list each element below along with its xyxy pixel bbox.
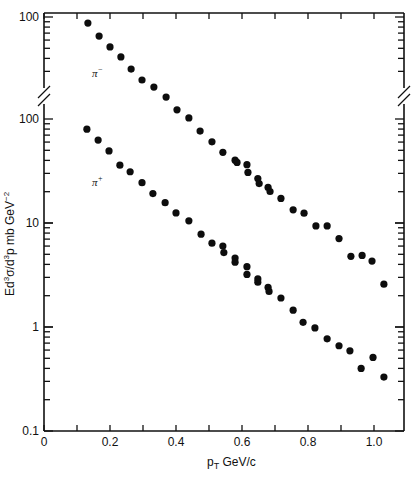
x-tick-label: 0.2 [102, 435, 119, 449]
axis-tick-labels: 00.20.40.60.81.00.1110100100 [19, 10, 383, 449]
data-point-pi-minus [96, 32, 103, 39]
data-point-pi-plus [254, 279, 261, 286]
data-point-pi-plus [220, 249, 227, 256]
data-point-pi-minus [266, 188, 273, 195]
data-point-pi-minus [173, 106, 180, 113]
data-point-pi-plus [162, 199, 169, 206]
x-tick-label: 0.6 [234, 435, 251, 449]
data-point-pi-minus [117, 53, 124, 60]
data-point-pi-minus [368, 257, 375, 264]
data-point-pi-minus [380, 281, 387, 288]
data-point-pi-plus [299, 319, 306, 326]
data-point-pi-plus [127, 168, 134, 175]
data-point-pi-plus [95, 136, 102, 143]
y-axis-title: Ed3σ/d3p mb GeV−2 [2, 191, 17, 296]
y-tick-label: 0.1 [22, 424, 39, 438]
data-point-pi-plus [105, 147, 112, 154]
y-tick-label: 100 [19, 112, 39, 126]
data-point-pi-minus [347, 253, 354, 260]
data-point-pi-plus [335, 342, 342, 349]
data-point-pi-minus [185, 114, 192, 121]
data-point-pi-minus [312, 222, 319, 229]
data-point-pi-plus [83, 126, 90, 133]
pion-spectrum-chart: 00.20.40.60.81.00.1110100100 π− π+ pT Ge… [0, 0, 420, 479]
data-point-pi-plus [116, 162, 123, 169]
data-point-pi-plus [243, 271, 250, 278]
data-point-pi-minus [219, 149, 226, 156]
data-point-pi-minus [244, 169, 251, 176]
data-point-pi-plus [149, 190, 156, 197]
axis-ticks [44, 13, 404, 431]
x-tick-label: 0.4 [168, 435, 185, 449]
data-point-pi-minus [196, 127, 203, 134]
data-point-pi-plus [172, 209, 179, 216]
data-point-pi-plus [324, 335, 331, 342]
data-point-pi-plus [311, 324, 318, 331]
data-point-pi-minus [290, 206, 297, 213]
data-point-pi-plus [346, 347, 353, 354]
data-point-pi-plus [369, 354, 376, 361]
data-point-pi-minus [277, 195, 284, 202]
x-tick-label: 0.8 [300, 435, 317, 449]
series-label-pi-minus: π− [92, 65, 103, 79]
data-point-pi-minus [163, 93, 170, 100]
data-point-pi-plus [197, 231, 204, 238]
data-point-pi-minus [208, 138, 215, 145]
data-point-pi-plus [219, 242, 226, 249]
x-tick-label: 1.0 [366, 435, 383, 449]
data-point-pi-plus [265, 288, 272, 295]
data-point-pi-minus [335, 235, 342, 242]
x-tick-label: 0 [41, 435, 48, 449]
data-point-pi-plus [185, 217, 192, 224]
data-point-pi-minus [324, 222, 331, 229]
data-point-pi-minus [106, 43, 113, 50]
data-point-pi-plus [277, 294, 284, 301]
data-point-pi-plus [138, 179, 145, 186]
data-point-pi-plus [231, 259, 238, 266]
x-axis-title: pT GeV/c [207, 455, 256, 471]
data-point-pi-plus [243, 263, 250, 270]
data-point-pi-minus [84, 19, 91, 26]
data-point-pi-plus [380, 373, 387, 380]
data-point-pi-plus [208, 240, 215, 247]
y-tick-label: 10 [26, 216, 40, 230]
y-tick-label-upper: 100 [19, 10, 39, 24]
data-point-pi-minus [256, 180, 263, 187]
data-point-pi-plus [358, 365, 365, 372]
data-point-pi-minus [128, 65, 135, 72]
data-points [83, 19, 387, 380]
series-label-pi-plus: π+ [92, 174, 103, 188]
data-point-pi-minus [138, 76, 145, 83]
y-tick-label: 1 [32, 320, 39, 334]
data-point-pi-minus [359, 252, 366, 259]
data-point-pi-minus [233, 159, 240, 166]
data-point-pi-minus [243, 161, 250, 168]
data-point-pi-plus [290, 307, 297, 314]
data-point-pi-minus [150, 83, 157, 90]
data-point-pi-minus [300, 210, 307, 217]
